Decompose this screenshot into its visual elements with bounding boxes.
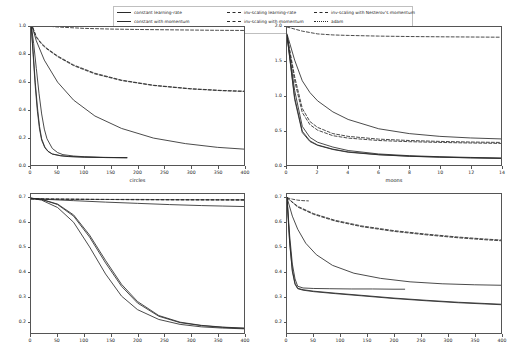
y-axis-tick-mark [284, 166, 287, 167]
subplot-bottom-right: 0.20.30.40.50.60.70501001502002503003504… [0, 0, 517, 360]
x-axis-tick-mark [191, 166, 192, 169]
y-axis-tick-mark [284, 222, 287, 223]
series-line [287, 198, 501, 286]
x-axis-tick-mark [138, 166, 139, 169]
series-line [31, 198, 244, 329]
y-axis-tick-label: 0.0 [264, 163, 282, 168]
legend-label: adam [331, 18, 343, 25]
legend: constant learning-rate constant with mom… [113, 6, 413, 34]
legend-label: constant with Nesterov's momentum [134, 26, 214, 33]
series-line [31, 198, 244, 328]
legend-label: inv-scaling with Nesterov's momentum [331, 9, 415, 16]
y-axis-tick-mark [28, 247, 31, 248]
series-line [31, 27, 127, 158]
series-line [31, 198, 244, 206]
x-axis-tick-mark [286, 334, 287, 337]
y-axis-tick-label: 0.6 [8, 219, 26, 224]
y-axis-tick-label: 0.5 [264, 128, 282, 133]
legend-label: constant learning-rate [134, 9, 182, 16]
legend-line-swatch-dashed [227, 12, 241, 13]
x-axis-tick-label: 200 [126, 170, 150, 175]
series-line [31, 198, 244, 328]
y-axis-tick-mark [28, 222, 31, 223]
x-axis-tick-label: 14 [490, 170, 514, 175]
series-line [287, 34, 501, 139]
y-axis-tick-mark [284, 61, 287, 62]
y-axis-tick-label: 0.8 [8, 51, 26, 56]
legend-item: inv-scaling with Nesterov's momentum [314, 9, 409, 16]
legend-column-1: constant learning-rate constant with mom… [117, 9, 227, 33]
y-axis-tick-label: 0.4 [8, 269, 26, 274]
plot-area-moons [286, 26, 502, 166]
x-axis-tick-label: 2 [305, 170, 329, 175]
x-axis-tick-label: 200 [382, 338, 406, 343]
legend-item: inv-scaling learning-rate [227, 9, 314, 16]
x-axis-tick-mark [111, 166, 112, 169]
x-axis-tick-mark [340, 334, 341, 337]
legend-line-swatch-solid [117, 21, 131, 22]
x-axis-tick-mark [57, 334, 58, 337]
y-axis-tick-label: 1.5 [264, 58, 282, 63]
series-line [287, 198, 501, 241]
x-axis-tick-mark [379, 166, 380, 169]
x-axis-tick-label: 0 [18, 170, 42, 175]
y-axis-tick-mark [28, 166, 31, 167]
x-axis-tick-mark [502, 166, 503, 169]
x-axis-tick-mark [164, 166, 165, 169]
x-axis-tick-label: 100 [72, 170, 96, 175]
series-line [287, 198, 501, 305]
subplot-moons: moons 0.00.51.01.52.002468101214 [0, 0, 517, 360]
x-axis-tick-mark [138, 334, 139, 337]
y-axis-tick-mark [28, 110, 31, 111]
x-axis-tick-label: 200 [126, 338, 150, 343]
x-axis-tick-mark [421, 334, 422, 337]
x-axis-tick-label: 250 [409, 338, 433, 343]
y-axis-tick-mark [28, 272, 31, 273]
legend-line-swatch-solid [117, 29, 131, 30]
x-axis-tick-label: 50 [45, 338, 69, 343]
x-axis-tick-mark [394, 334, 395, 337]
series-line [287, 198, 501, 305]
x-axis-tick-label: 12 [459, 170, 483, 175]
legend-column-2: inv-scaling learning-rate inv-scaling wi… [227, 9, 314, 33]
x-axis-tick-mark [191, 334, 192, 337]
x-axis-tick-label: 350 [463, 338, 487, 343]
y-axis-tick-label: 0.6 [8, 79, 26, 84]
series-line [287, 35, 501, 158]
plot-area-bottom-left [30, 193, 245, 334]
legend-label: inv-scaling learning-rate [244, 9, 296, 16]
x-axis-tick-mark [367, 334, 368, 337]
x-axis-tick-mark [111, 334, 112, 337]
x-axis-tick-mark [471, 166, 472, 169]
series-line [31, 199, 244, 200]
x-axis-tick-label: 8 [397, 170, 421, 175]
x-axis-tick-mark [409, 166, 410, 169]
y-axis-tick-label: 0.3 [264, 294, 282, 299]
series-line [287, 35, 501, 142]
y-axis-tick-mark [284, 247, 287, 248]
y-axis-tick-mark [284, 297, 287, 298]
y-axis-tick-mark [28, 138, 31, 139]
y-axis-tick-label: 0.2 [264, 319, 282, 324]
series-line [31, 27, 244, 149]
x-axis-tick-label: 100 [328, 338, 352, 343]
legend-line-swatch-dashed [314, 12, 328, 13]
series-line [31, 27, 127, 158]
y-axis-tick-label: 0.5 [264, 244, 282, 249]
y-axis-tick-label: 0.6 [264, 219, 282, 224]
x-axis-tick-mark [245, 334, 246, 337]
legend-item: inv-scaling with momentum [227, 17, 314, 24]
legend-item: adam [314, 17, 409, 24]
x-axis-tick-mark [448, 334, 449, 337]
series-line [31, 199, 244, 200]
y-axis-tick-mark [28, 54, 31, 55]
legend-item: constant with Nesterov's momentum [117, 26, 227, 33]
x-axis-tick-mark [218, 334, 219, 337]
x-axis-tick-mark [84, 334, 85, 337]
series-line [287, 198, 405, 290]
y-axis-tick-mark [28, 82, 31, 83]
x-axis-tick-label: 250 [152, 170, 176, 175]
x-axis-tick-mark [317, 166, 318, 169]
figure-canvas: constant learning-rate constant with mom… [0, 0, 517, 360]
x-axis-tick-label: 0 [274, 338, 298, 343]
